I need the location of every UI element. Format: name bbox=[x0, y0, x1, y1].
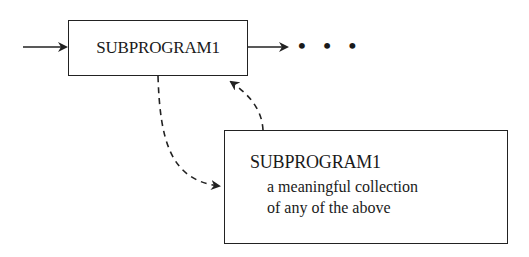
subprogram-box: SUBPROGRAM1 bbox=[68, 20, 248, 76]
return-arrow bbox=[231, 82, 263, 130]
subprogram-label: SUBPROGRAM1 bbox=[96, 38, 219, 58]
subprogram-description-line2: of any of the above bbox=[267, 199, 391, 217]
continuation-ellipsis: • • • bbox=[298, 33, 362, 59]
subprogram-detail-box: SUBPROGRAM1 a meaningful collection of a… bbox=[224, 130, 508, 244]
subprogram-description-line1: a meaningful collection bbox=[267, 178, 418, 196]
subprogram-detail-title: SUBPROGRAM1 bbox=[250, 152, 381, 173]
call-arrow bbox=[158, 76, 219, 186]
